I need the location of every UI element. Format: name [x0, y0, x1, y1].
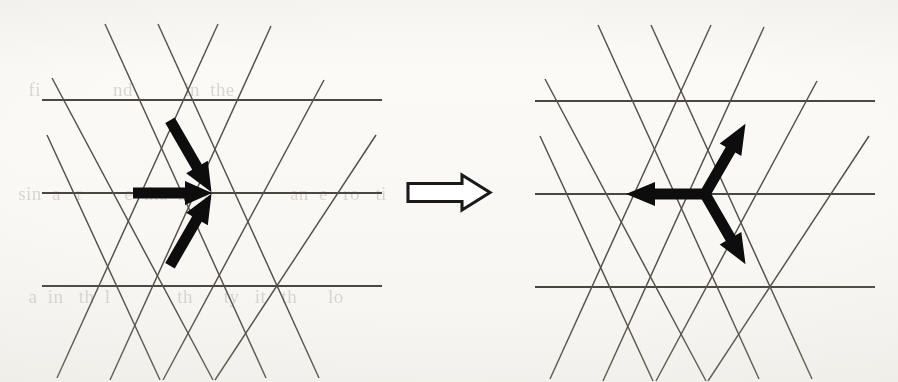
lattice-line-diagonal: [651, 25, 812, 379]
right-lattice-diagonal-lines-down: [540, 25, 812, 381]
lattice-line-diagonal: [540, 136, 653, 381]
lattice-line-diagonal: [550, 25, 711, 379]
right-panel-final-state: [535, 25, 875, 381]
implies-arrow: [408, 175, 490, 210]
left-lattice-diagonal-lines-up: [57, 24, 376, 380]
lattice-line-diagonal: [158, 24, 319, 378]
lattice-line-diagonal: [215, 135, 376, 380]
lattice-line-diagonal: [47, 135, 160, 380]
lattice-line-diagonal: [603, 27, 764, 381]
lattice-line-diagonal: [110, 26, 271, 380]
lattice-line-diagonal: [598, 25, 759, 379]
lattice-line-diagonal: [708, 136, 869, 381]
left-lattice-diagonal-lines-down: [47, 24, 319, 380]
lattice-figure-canvas: [0, 0, 898, 382]
figure-root: fi nd in the sin a r e tha in a an e ro …: [0, 0, 898, 382]
left-panel-initial-state: [42, 24, 382, 380]
